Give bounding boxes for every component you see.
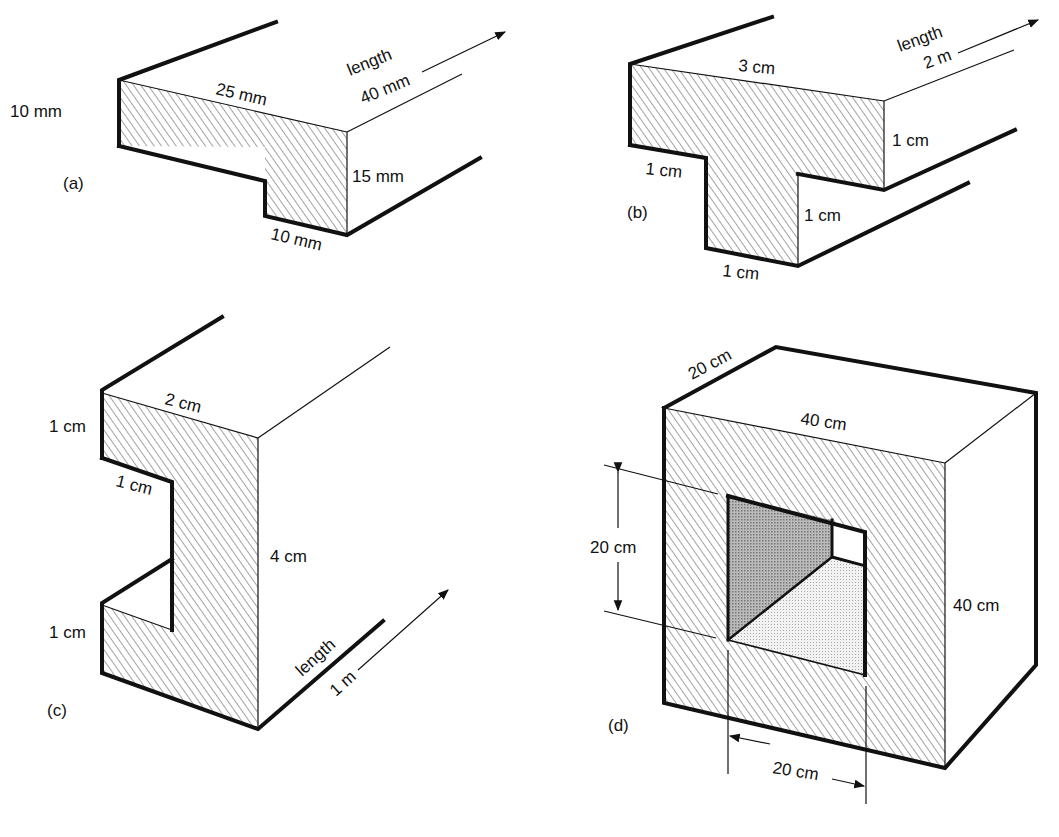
label-d-right: 40 cm: [953, 596, 999, 615]
figure-d: 20 cm 40 cm 40 cm 20 cm 20 cm (d): [590, 345, 1036, 804]
section-c-face: [102, 393, 258, 729]
label-a-left: 10 mm: [10, 102, 62, 121]
label-d-depth: 20 cm: [685, 345, 735, 384]
label-a-right: 15 mm: [352, 167, 404, 186]
label-d-top: 40 cm: [799, 409, 847, 434]
figure-tag-c: (c): [47, 701, 67, 720]
label-b-bottom: 1 cm: [722, 261, 761, 284]
label-c-lower-left: 1 cm: [49, 623, 86, 642]
figure-tag-b: (b): [627, 203, 648, 222]
figure-tag-a: (a): [63, 174, 84, 193]
label-b-web-right: 1 cm: [804, 206, 841, 225]
label-c-upper-left: 1 cm: [49, 417, 86, 436]
label-d-hole-height: 20 cm: [590, 538, 636, 557]
label-b-length-value: 2 m: [921, 45, 954, 73]
label-d-hole-width: 20 cm: [771, 758, 820, 784]
label-c-right: 4 cm: [270, 547, 307, 566]
cross-sections-diagram: 10 mm 25 mm 15 mm 10 mm length 40 mm (a)…: [0, 0, 1059, 837]
figure-b: 3 cm 1 cm 1 cm 1 cm 1 cm length 2 m (b): [627, 17, 1038, 284]
label-b-top: 3 cm: [738, 56, 776, 78]
label-c-length-word: length: [292, 635, 339, 680]
figure-c: 2 cm 1 cm 1 cm 1 cm 4 cm length 1 m (c): [47, 317, 448, 729]
section-a-face: [119, 80, 347, 235]
figure-tag-d: (d): [608, 716, 629, 735]
label-a-length-value: 40 mm: [357, 71, 412, 108]
label-b-right: 1 cm: [892, 131, 929, 150]
figure-a: 10 mm 25 mm 15 mm 10 mm length 40 mm (a): [10, 22, 505, 255]
label-a-length-word: length: [344, 45, 394, 80]
label-c-length-value: 1 m: [326, 667, 360, 700]
label-b-flange-under: 1 cm: [645, 159, 684, 182]
